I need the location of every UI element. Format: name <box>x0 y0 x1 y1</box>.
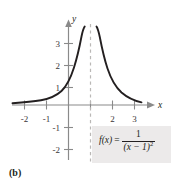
y-tick-label-3: 3 <box>56 39 61 49</box>
denominator-base: (x − 1) <box>124 142 150 152</box>
curve-right-branch <box>97 27 142 103</box>
fraction-numerator: 1 <box>132 130 145 141</box>
x-axis <box>12 102 155 109</box>
y-tick-label--2: -2 <box>53 145 61 155</box>
x-tick-label--2: -2 <box>21 114 29 124</box>
equation-fraction: 1 (x − 1)2 <box>122 130 156 152</box>
y-tick-label--1: -1 <box>53 123 61 133</box>
y-axis-label: y <box>71 14 77 24</box>
equation-equals-sign: = <box>114 136 119 146</box>
fraction-denominator: (x − 1)2 <box>122 142 156 153</box>
y-axis <box>65 20 72 161</box>
equation-lhs: f(x) <box>99 136 112 146</box>
denominator-exponent: 2 <box>150 139 153 146</box>
figure-caption: (b) <box>9 167 21 178</box>
figure-container: x y -2 -1 2 3 3 2 1 -1 -2 f(x) = 1 (x − … <box>0 0 171 184</box>
x-axis-label: x <box>157 100 163 110</box>
y-tick-label-2: 2 <box>56 61 61 71</box>
y-tick-label-1: 1 <box>56 83 61 93</box>
curve-left-branch <box>13 27 85 104</box>
x-tick-label-3: 3 <box>132 114 137 124</box>
x-tick-label--1: -1 <box>43 114 51 124</box>
x-tick-label-2: 2 <box>110 114 115 124</box>
function-equation: f(x) = 1 (x − 1)2 <box>99 130 155 152</box>
